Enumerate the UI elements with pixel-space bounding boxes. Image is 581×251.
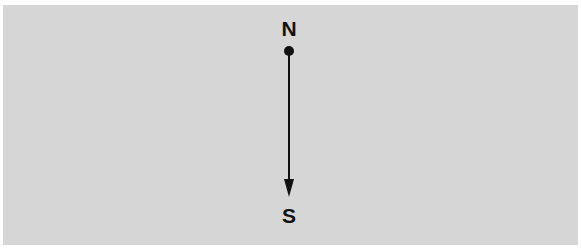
arrowhead-icon (284, 179, 294, 197)
north-label: N (274, 18, 304, 39)
south-label: S (274, 205, 304, 226)
